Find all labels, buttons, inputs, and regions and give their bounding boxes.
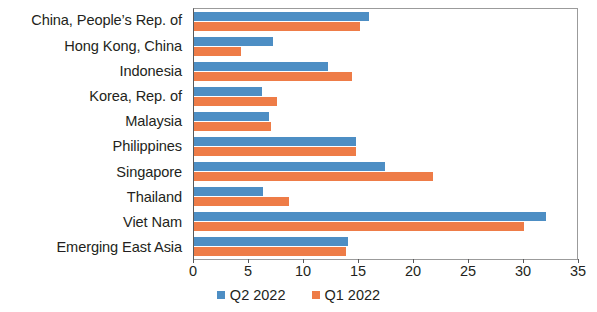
bar-q2-2022 <box>194 112 269 121</box>
horizontal-bar-chart: China, People’s Rep. ofHong Kong, ChinaI… <box>0 0 597 312</box>
bar-q1-2022 <box>194 197 289 206</box>
bar-group <box>194 234 577 259</box>
bar-q1-2022 <box>194 222 524 231</box>
bar-group <box>194 184 577 209</box>
bar-q2-2022 <box>194 87 262 96</box>
bar-group <box>194 159 577 184</box>
legend-swatch-icon <box>217 291 225 299</box>
x-tick-label: 0 <box>189 264 197 279</box>
bar-q1-2022 <box>194 47 241 56</box>
bar-rows <box>194 9 577 259</box>
bar-q1-2022 <box>194 147 356 156</box>
category-label: Thailand <box>0 184 188 209</box>
category-label: Singapore <box>0 159 188 184</box>
x-tick-label: 35 <box>570 264 586 279</box>
bar-group <box>194 9 577 34</box>
x-tick-label: 10 <box>295 264 311 279</box>
category-label: Hong Kong, China <box>0 33 188 58</box>
bar-group <box>194 134 577 159</box>
x-tick-label: 15 <box>350 264 366 279</box>
legend-label: Q2 2022 <box>230 288 286 303</box>
bar-q1-2022 <box>194 97 277 106</box>
category-axis-labels: China, People’s Rep. ofHong Kong, ChinaI… <box>0 8 188 260</box>
x-tick-label: 5 <box>244 264 252 279</box>
bar-q2-2022 <box>194 62 328 71</box>
category-label: Indonesia <box>0 58 188 83</box>
bar-q2-2022 <box>194 212 546 221</box>
x-axis: 05101520253035 <box>193 259 578 289</box>
bar-q2-2022 <box>194 187 263 196</box>
bar-group <box>194 209 577 234</box>
legend-item[interactable]: Q1 2022 <box>312 288 381 303</box>
bar-q2-2022 <box>194 162 385 171</box>
legend-swatch-icon <box>312 291 320 299</box>
bar-q1-2022 <box>194 72 352 81</box>
bar-q1-2022 <box>194 22 360 31</box>
bar-group <box>194 84 577 109</box>
bar-group <box>194 109 577 134</box>
category-label: Korea, Rep. of <box>0 84 188 109</box>
bar-q2-2022 <box>194 137 356 146</box>
category-label: China, People’s Rep. of <box>0 8 188 33</box>
legend-label: Q1 2022 <box>325 288 381 303</box>
legend-item[interactable]: Q2 2022 <box>217 288 286 303</box>
x-tick-label: 30 <box>515 264 531 279</box>
x-tick-label: 25 <box>460 264 476 279</box>
bar-q1-2022 <box>194 122 271 131</box>
plot-area <box>193 8 578 260</box>
bar-q2-2022 <box>194 237 348 246</box>
bar-q2-2022 <box>194 12 369 21</box>
bar-q1-2022 <box>194 172 433 181</box>
bar-group <box>194 59 577 84</box>
category-label: Malaysia <box>0 109 188 134</box>
chart-legend: Q2 2022Q1 2022 <box>0 288 597 303</box>
category-label: Philippines <box>0 134 188 159</box>
bar-group <box>194 34 577 59</box>
bar-q2-2022 <box>194 37 273 46</box>
category-label: Emerging East Asia <box>0 235 188 260</box>
x-tick-label: 20 <box>405 264 421 279</box>
category-label: Viet Nam <box>0 210 188 235</box>
bar-q1-2022 <box>194 247 346 256</box>
